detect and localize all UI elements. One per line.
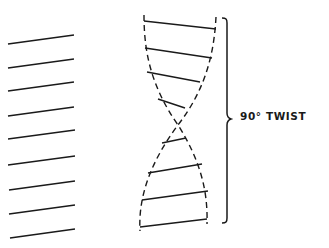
twist-label: 90° TWIST (240, 110, 306, 122)
ribbon-bar (148, 164, 202, 173)
ribbon-bar (145, 48, 212, 58)
parallel-line (9, 181, 75, 190)
ribbon-bar (162, 138, 186, 143)
parallel-line (8, 156, 75, 165)
untwisted-parallel-lines (8, 35, 75, 238)
parallel-line (9, 205, 75, 214)
ribbon-bar (158, 99, 185, 108)
twist-diagram: 90° TWIST (0, 0, 329, 248)
ribbon-bar (140, 219, 207, 227)
parallel-line (8, 107, 74, 116)
ribbon-bar (147, 72, 200, 82)
parallel-line (8, 59, 74, 68)
diagram-graphic (0, 0, 329, 248)
ribbon-bar (144, 21, 216, 29)
parallel-line (8, 82, 74, 91)
parallel-line (8, 130, 75, 139)
parallel-line (10, 229, 75, 238)
parallel-line (8, 35, 74, 44)
ribbon-bar (142, 191, 208, 200)
curly-brace-icon (222, 18, 231, 223)
